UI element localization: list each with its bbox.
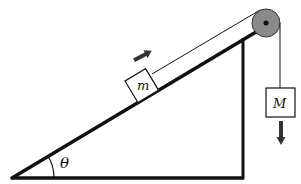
block-m-label: m <box>137 78 149 93</box>
pulley-axle <box>264 21 269 26</box>
arrow-down-icon <box>277 121 286 145</box>
block-M: M <box>266 88 295 117</box>
arrow-up-slope-icon <box>132 47 154 64</box>
block-M-label: M <box>272 96 287 111</box>
angle-label: θ <box>60 154 69 172</box>
pulley <box>252 9 280 37</box>
block-m: m <box>125 69 158 103</box>
angle-arc <box>48 156 54 178</box>
incline-pulley-diagram: θ m M <box>0 0 301 184</box>
